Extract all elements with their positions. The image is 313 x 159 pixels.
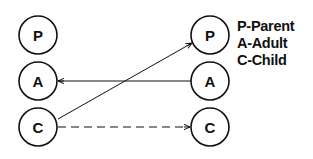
- svg-text:C: C: [205, 119, 216, 136]
- left-node-child: C: [19, 108, 57, 146]
- svg-text:P: P: [33, 27, 43, 44]
- legend: P-Parent A-Adult C-Child: [237, 18, 294, 69]
- svg-text:C: C: [33, 119, 44, 136]
- legend-item-parent: P-Parent: [237, 18, 294, 35]
- left-node-parent: P: [19, 16, 57, 54]
- right-node-child: C: [191, 108, 229, 146]
- right-node-adult: A: [191, 62, 229, 100]
- legend-item-adult: A-Adult: [237, 35, 294, 52]
- svg-text:P: P: [205, 27, 215, 44]
- svg-text:A: A: [33, 73, 44, 90]
- legend-item-child: C-Child: [237, 52, 294, 69]
- right-node-parent: P: [191, 16, 229, 54]
- svg-text:A: A: [205, 73, 216, 90]
- left-node-adult: A: [19, 62, 57, 100]
